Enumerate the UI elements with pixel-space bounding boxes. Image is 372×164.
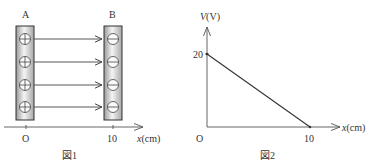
minus-icon bbox=[108, 34, 119, 45]
minus-icon bbox=[108, 57, 119, 68]
x-axis-label-fig2: x(cm) bbox=[341, 122, 365, 134]
minus-icon bbox=[108, 102, 119, 113]
x-unit: (cm) bbox=[141, 133, 160, 145]
y-axis-label: V(V) bbox=[200, 11, 220, 23]
y-tick-20: 20 bbox=[193, 49, 203, 60]
x-unit: (cm) bbox=[346, 122, 365, 134]
tick-label-origin: O bbox=[22, 133, 29, 144]
origin-label: O bbox=[196, 133, 203, 144]
point-start bbox=[206, 53, 208, 55]
field-lines bbox=[34, 39, 102, 107]
tick-label-10: 10 bbox=[107, 133, 117, 144]
figure-1: A B O 10 x(cm) 図1 bbox=[4, 9, 160, 161]
x-tick-10: 10 bbox=[304, 133, 314, 144]
minus-icon bbox=[108, 80, 119, 91]
point-end bbox=[309, 126, 311, 128]
v-unit: (V) bbox=[206, 11, 220, 23]
plate-a-label: A bbox=[22, 9, 30, 20]
plus-icon bbox=[20, 57, 31, 68]
potential-line bbox=[207, 54, 310, 127]
figure-1-caption: 図1 bbox=[62, 150, 77, 161]
plate-b-label: B bbox=[109, 9, 116, 20]
plus-icon bbox=[20, 102, 31, 113]
diagram-canvas: A B O 10 x(cm) 図1 bbox=[0, 0, 372, 164]
x-axis-label: x(cm) bbox=[136, 133, 160, 145]
figure-2-caption: 図2 bbox=[260, 150, 275, 161]
plus-icon bbox=[20, 80, 31, 91]
figure-2: V(V) 20 x(cm) O 10 図2 bbox=[193, 11, 365, 161]
plus-icon bbox=[20, 34, 31, 45]
